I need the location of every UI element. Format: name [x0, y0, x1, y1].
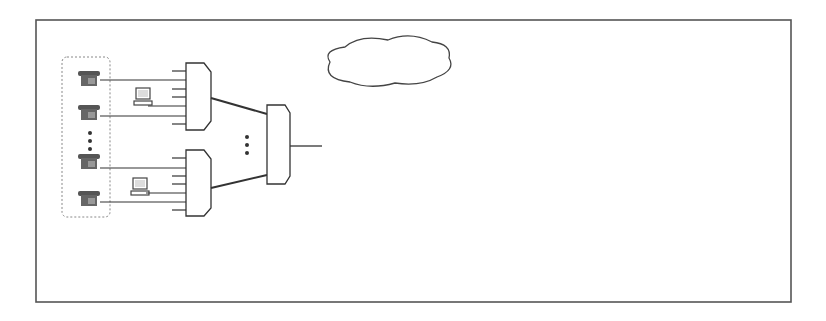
- network-diagram: [0, 0, 826, 321]
- access-switch-top-left: [186, 63, 211, 130]
- phone-icon: [78, 105, 100, 120]
- snd-vlan-cloud: [328, 36, 451, 86]
- distribution-switch: [267, 105, 290, 184]
- phone-icon: [78, 191, 100, 206]
- diagram-graphics: [0, 0, 826, 321]
- phone-icon: [78, 154, 100, 169]
- phone-icon: [78, 71, 100, 86]
- pc-icon: [134, 88, 152, 105]
- access-switch-bottom-left: [186, 150, 211, 216]
